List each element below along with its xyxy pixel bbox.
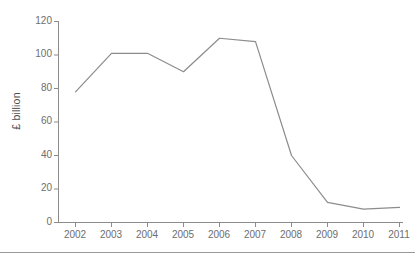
data-series-line [76, 38, 400, 209]
line-chart-figure: £ billion 120 100 80 60 40 20 0 2002 200… [0, 0, 415, 248]
page-root: £ billion 120 100 80 60 40 20 0 2002 200… [0, 0, 415, 263]
y-tick-marks [54, 22, 58, 223]
plot-area [0, 0, 415, 248]
footer-area [0, 253, 415, 263]
